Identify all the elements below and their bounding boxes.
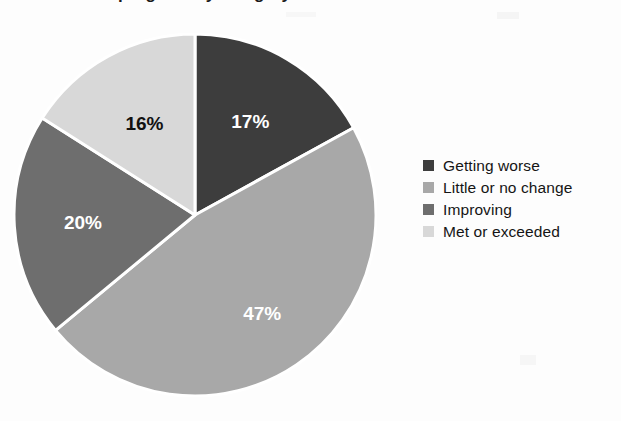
chart-title-text: progress by category — [118, 0, 291, 4]
legend-swatch-icon — [423, 204, 434, 215]
pie-chart-svg: 17%47%20%16% — [13, 33, 377, 397]
pie-chart-screenshot: progress by category 17%47%20%16% Gettin… — [0, 0, 621, 421]
scan-artifact — [286, 12, 316, 17]
scan-artifact — [497, 12, 519, 19]
legend-item-label: Improving — [443, 202, 512, 218]
legend-item-getting-worse[interactable]: Getting worse — [423, 155, 613, 176]
pie-chart: 17%47%20%16% — [13, 33, 377, 397]
scan-artifact — [520, 355, 536, 365]
legend-item-met-or-exceeded[interactable]: Met or exceeded — [423, 221, 613, 242]
legend-item-label: Met or exceeded — [443, 224, 560, 240]
legend-swatch-icon — [423, 182, 434, 193]
legend-item-label: Getting worse — [443, 158, 540, 174]
pie-slice-label: 16% — [125, 113, 163, 134]
legend: Getting worse Little or no change Improv… — [423, 155, 613, 243]
legend-item-label: Little or no change — [443, 180, 572, 196]
legend-swatch-icon — [423, 226, 434, 237]
legend-swatch-icon — [423, 160, 434, 171]
legend-item-little-or-no-change[interactable]: Little or no change — [423, 177, 613, 198]
pie-slice-label: 47% — [243, 303, 281, 324]
pie-slice-label: 20% — [64, 212, 102, 233]
legend-item-improving[interactable]: Improving — [423, 199, 613, 220]
pie-slice-label: 17% — [231, 111, 269, 132]
chart-title-clipped: progress by category — [0, 0, 400, 6]
